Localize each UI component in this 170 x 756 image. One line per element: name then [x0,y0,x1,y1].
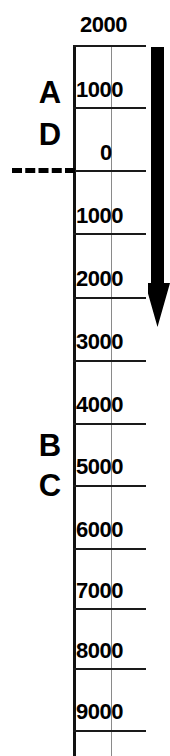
tick-label-1000: 1000 [76,205,146,227]
tick-line [73,548,146,550]
datum-dashed-line [12,168,75,173]
tick-label-8000: 8000 [76,640,146,662]
tick-line [73,360,146,362]
tick-line [73,608,146,610]
tick-label-2000: 2000 [76,268,146,290]
tick-line [73,668,146,670]
tick-line [73,423,146,425]
annotation-letter-c: C [32,470,68,501]
tick-label-9000: 9000 [76,701,146,723]
down-arrow-icon [148,47,170,327]
tick-line [73,730,146,732]
tick-label-7000: 7000 [76,580,146,602]
tick-line [73,107,146,109]
tick-line [73,485,146,487]
tick-label-4000: 4000 [76,394,146,416]
tick-label-0: 0 [100,142,140,164]
annotation-letter-d: D [32,119,68,150]
tick-line [73,170,146,172]
tick-label-3000: 3000 [76,331,146,353]
tick-label-5000: 5000 [76,456,146,478]
depth-scale-figure: 2000 1000 0 1000 2000 3000 4000 5000 600… [0,0,170,756]
tick-line [73,45,146,47]
tick-label-6000: 6000 [76,519,146,541]
annotation-letter-a: A [32,77,68,108]
tick-label-2000-top: 2000 [80,14,150,36]
tick-line [73,233,146,235]
tick-label-1000-above-datum: 1000 [76,79,146,101]
tick-line [73,297,146,299]
annotation-letter-b: B [32,430,68,461]
